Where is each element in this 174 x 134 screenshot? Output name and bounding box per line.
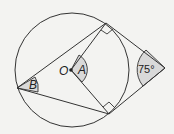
tangent-bottom xyxy=(109,68,165,114)
radius-top xyxy=(71,23,106,70)
right-angle-bottom xyxy=(103,102,115,108)
radius-bottom xyxy=(71,70,109,114)
tangent-top xyxy=(106,23,165,68)
label-75: 75° xyxy=(138,63,155,75)
geometry-diagram: O A B 75° xyxy=(0,0,174,134)
right-angle-top xyxy=(101,29,113,34)
center-point xyxy=(69,68,73,72)
label-a: A xyxy=(77,63,86,77)
label-b: B xyxy=(29,78,37,92)
label-o: O xyxy=(59,64,68,78)
